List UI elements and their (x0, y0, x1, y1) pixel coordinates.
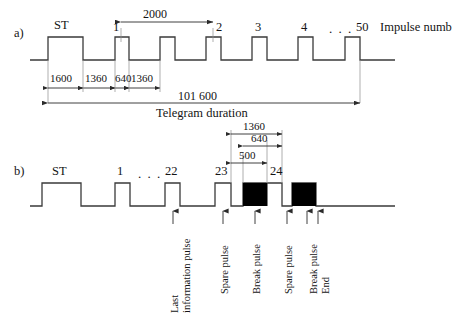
annotation-line: Break pulse (251, 244, 262, 294)
dimension-label-640-a: 640 (115, 73, 132, 84)
panel-b-waveform (30, 183, 395, 206)
annotation-break-pulse-end: Break pulse End (308, 244, 332, 294)
panel-b-ellipsis: . . . (138, 167, 162, 180)
annotation-spare-pulse-1: Spare pulse (219, 245, 230, 294)
annotation-line: information pulse (181, 239, 193, 313)
impulse-number-axis-label: Impulse numb (380, 21, 452, 34)
annotation-line: Spare pulse (219, 245, 230, 294)
panel-b-start-label: ST (52, 165, 67, 178)
panel-a-impulse-3: 3 (255, 21, 261, 34)
panel-a-ellipsis: . . . (329, 22, 353, 35)
annotation-break-pulse: Break pulse (251, 244, 262, 294)
dimension-label-2000: 2000 (143, 8, 167, 20)
dimension-label-640-panel-b: 640 (251, 133, 268, 144)
telegram-duration-caption: Telegram duration (156, 107, 248, 120)
dimension-label-101600: 101 600 (178, 90, 217, 102)
break-pulse-fills (243, 183, 316, 206)
annotation-line: Break pulse (308, 244, 320, 294)
annotation-line: Spare pulse (283, 245, 294, 294)
break-pulse-2 (292, 183, 316, 206)
panel-a-waveform (30, 37, 395, 60)
panel-a-start-label: ST (54, 19, 69, 32)
panel-a-impulse-4: 4 (301, 21, 307, 34)
dimension-label-1360-b: 1360 (131, 73, 153, 84)
panel-b-tag: b) (14, 165, 24, 178)
annotation-line: End (320, 244, 332, 294)
dimension-label-1360-a: 1360 (85, 73, 107, 84)
panel-b-impulse-22: 22 (165, 165, 178, 178)
panel-a-impulse-50: 50 (356, 21, 369, 34)
panel-b-impulse-23: 23 (215, 165, 228, 178)
dimension-label-500: 500 (239, 150, 256, 161)
callout-arrows (173, 211, 318, 224)
annotation-spare-pulse-2: Spare pulse (283, 245, 294, 294)
dimension-label-1360-panel-b: 1360 (243, 121, 265, 132)
panel-b-impulse-24: 24 (270, 165, 283, 178)
panel-a-tag: a) (14, 27, 24, 40)
panel-a-impulse-1: 1 (113, 21, 119, 34)
panel-a-impulse-2: 2 (216, 21, 222, 34)
annotation-line: Last (169, 239, 181, 313)
annotation-last-information-pulse: Last information pulse (169, 239, 193, 313)
dimension-label-1600: 1600 (50, 73, 72, 84)
break-pulse-1 (243, 183, 267, 206)
panel-b-impulse-1: 1 (117, 165, 123, 178)
